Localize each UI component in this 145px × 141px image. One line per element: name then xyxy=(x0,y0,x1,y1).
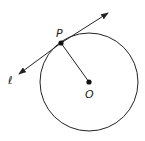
radius-segment xyxy=(61,43,89,82)
label-p: P xyxy=(56,27,63,40)
tangent-diagram: P O ℓ xyxy=(0,0,145,141)
tangent-line xyxy=(61,13,108,43)
center-o-dot xyxy=(86,79,91,84)
label-o: O xyxy=(85,88,94,101)
point-p-dot xyxy=(58,40,63,45)
label-line-l: ℓ xyxy=(7,74,13,87)
tangent-line-lower xyxy=(19,43,61,74)
